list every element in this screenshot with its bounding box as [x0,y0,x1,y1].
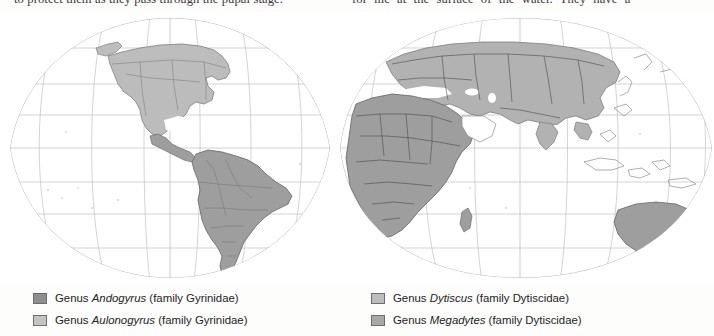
black-sea [465,89,479,96]
map-legend: Genus Andogyrus (family Gyrinidae) Genus… [0,288,714,336]
legend-prefix: Genus [393,314,430,326]
legend-family: (family Dytiscidae) [485,314,581,326]
legend-label-dytiscus: Genus Dytiscus (family Dytiscidae) [393,292,569,304]
caspian-sea [488,93,496,103]
legend-genus-name: Megadytes [430,314,486,326]
legend-item-aulonogyrus[interactable]: Genus Aulonogyrus (family Gyrinidae) [33,310,247,330]
legend-item-megadytes[interactable]: Genus Megadytes (family Dytiscidae) [371,310,582,330]
legend-swatch-aulonogyrus [33,315,47,326]
world-distribution-map [0,12,714,284]
legend-swatch-megadytes [371,315,385,326]
legend-label-aulonogyrus: Genus Aulonogyrus (family Gyrinidae) [55,314,247,326]
body-text-left-column: to protect them as they pass through the… [14,0,344,7]
legend-prefix: Genus [393,292,430,304]
legend-label-andogyrus: Genus Andogyrus (family Gyrinidae) [55,292,239,304]
legend-label-megadytes: Genus Megadytes (family Dytiscidae) [393,314,582,326]
legend-column-right: Genus Dytiscus (family Dytiscidae) Genus… [371,288,582,332]
page-body-text: to protect them as they pass through the… [0,0,714,11]
legend-prefix: Genus [55,314,92,326]
body-text-right-column: for me at the surface of the water. They… [352,0,708,7]
map-svg [0,12,714,284]
legend-item-dytiscus[interactable]: Genus Dytiscus (family Dytiscidae) [371,288,582,308]
legend-column-left: Genus Andogyrus (family Gyrinidae) Genus… [33,288,247,332]
legend-family: (family Gyrinidae) [146,292,238,304]
legend-genus-name: Andogyrus [92,292,146,304]
legend-swatch-dytiscus [371,293,385,304]
legend-genus-name: Dytiscus [430,292,473,304]
legend-item-andogyrus[interactable]: Genus Andogyrus (family Gyrinidae) [33,288,247,308]
legend-prefix: Genus [55,292,92,304]
legend-family: (family Dytiscidae) [473,292,569,304]
legend-genus-name: Aulonogyrus [92,314,155,326]
legend-family: (family Gyrinidae) [155,314,247,326]
legend-swatch-andogyrus [33,293,47,304]
